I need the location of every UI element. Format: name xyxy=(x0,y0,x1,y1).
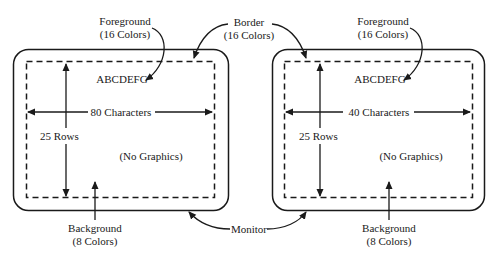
monitor-arrow-left xyxy=(189,212,230,229)
foreground-label-left-line1: Foreground xyxy=(92,15,158,28)
background-label-right-line1: Background xyxy=(354,222,424,235)
foreground-label-left: Foreground (16 Colors) xyxy=(92,15,158,41)
rows-label-left: 25 Rows xyxy=(37,130,82,143)
graphics-label-left: (No Graphics) xyxy=(116,150,186,163)
monitor-right xyxy=(273,28,485,220)
foreground-label-right-line2: (16 Colors) xyxy=(350,28,416,41)
background-label-left-line2: (8 Colors) xyxy=(60,235,130,248)
foreground-label-right: Foreground (16 Colors) xyxy=(350,15,416,41)
background-label-right: Background (8 Colors) xyxy=(354,222,424,248)
background-label-left: Background (8 Colors) xyxy=(60,222,130,248)
width-label-left: 80 Characters xyxy=(86,106,156,119)
monitor-arrow-right xyxy=(267,212,306,229)
monitor-left xyxy=(14,28,229,220)
foreground-label-right-line1: Foreground xyxy=(350,15,416,28)
border-label: Border (16 Colors) xyxy=(216,16,282,42)
rows-label-right: 25 Rows xyxy=(296,130,341,143)
sample-text-right: ABCDEFG xyxy=(350,73,410,86)
border-label-line2: (16 Colors) xyxy=(216,29,282,42)
graphics-label-right: (No Graphics) xyxy=(376,150,446,163)
foreground-label-left-line2: (16 Colors) xyxy=(92,28,158,41)
background-label-right-line2: (8 Colors) xyxy=(354,235,424,248)
border-label-line1: Border xyxy=(216,16,282,29)
width-label-right: 40 Characters xyxy=(344,106,414,119)
monitor-label-text: Monitor xyxy=(226,223,272,236)
monitor-label: Monitor xyxy=(226,223,272,236)
background-label-left-line1: Background xyxy=(60,222,130,235)
sample-text-left: ABCDEFG xyxy=(92,73,152,86)
